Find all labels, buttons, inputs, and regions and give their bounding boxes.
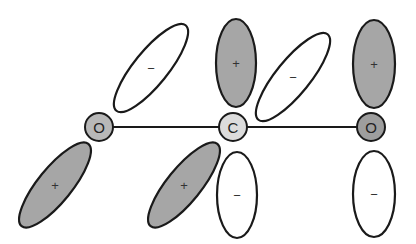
plus-sign: + — [51, 178, 59, 193]
atom-label: O — [365, 119, 377, 136]
minus-sign: − — [233, 188, 241, 203]
plus-sign: + — [232, 56, 240, 71]
atom-c: C — [219, 113, 247, 141]
plus-sign: + — [180, 178, 188, 193]
orbital-diagram-canvas: −++−−++− OCO — [0, 0, 416, 244]
minus-sign: − — [289, 70, 297, 85]
atom-o1: O — [85, 113, 113, 141]
minus-sign: − — [370, 187, 378, 202]
plus-sign: + — [370, 57, 378, 72]
atom-o2: O — [357, 113, 385, 141]
orbital-diagram: −++−−++− OCO — [0, 0, 416, 244]
atom-label: O — [93, 119, 105, 136]
atom-label: C — [228, 119, 239, 136]
minus-sign: − — [147, 61, 155, 76]
